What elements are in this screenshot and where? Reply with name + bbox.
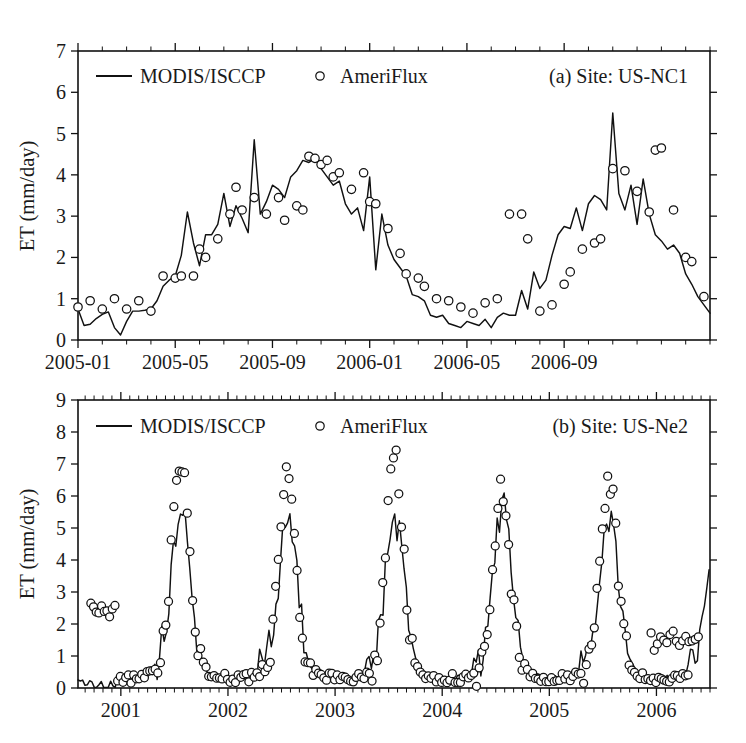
panel-b-ameriflux-markers bbox=[87, 446, 702, 690]
ameriflux-point bbox=[379, 579, 387, 587]
x-ticklabel: 2002 bbox=[208, 699, 248, 721]
ameriflux-point bbox=[384, 224, 392, 232]
ameriflux-point bbox=[98, 305, 106, 313]
ameriflux-point bbox=[214, 235, 222, 243]
ameriflux-point bbox=[162, 621, 170, 629]
ameriflux-point bbox=[582, 661, 590, 669]
legend-marker-swatch bbox=[316, 422, 324, 430]
y-ticklabel: 1 bbox=[56, 288, 66, 310]
y-ticklabel: 4 bbox=[56, 549, 66, 571]
ameriflux-point bbox=[183, 509, 191, 517]
ameriflux-point bbox=[588, 641, 596, 649]
ameriflux-point bbox=[489, 566, 497, 574]
ameriflux-point bbox=[189, 597, 197, 605]
ameriflux-point bbox=[181, 469, 189, 477]
ameriflux-point bbox=[86, 297, 94, 305]
ameriflux-point bbox=[250, 193, 258, 201]
panel-a-us-nc1: 01234567 2005-012005-052005-092006-01200… bbox=[0, 0, 746, 380]
ameriflux-point bbox=[298, 634, 306, 642]
ameriflux-point bbox=[596, 235, 604, 243]
y-ticklabel: 5 bbox=[56, 517, 66, 539]
ameriflux-point bbox=[560, 280, 568, 288]
panel-a-plot-area bbox=[74, 113, 710, 335]
ameriflux-point bbox=[612, 519, 620, 527]
ameriflux-point bbox=[387, 465, 395, 473]
x-ticklabel: 2004 bbox=[422, 699, 462, 721]
ameriflux-point bbox=[269, 615, 277, 623]
ameriflux-point bbox=[173, 476, 181, 484]
ameriflux-point bbox=[609, 485, 617, 493]
ameriflux-point bbox=[232, 183, 240, 191]
ameriflux-point bbox=[280, 216, 288, 224]
x-ticklabel: 2005-01 bbox=[45, 351, 112, 373]
panel-a-axes: 01234567 2005-012005-052005-092006-01200… bbox=[45, 40, 717, 373]
ameriflux-point bbox=[614, 582, 622, 590]
ameriflux-point bbox=[135, 297, 143, 305]
ameriflux-point bbox=[154, 669, 162, 677]
ameriflux-point bbox=[238, 206, 246, 214]
y-ticklabel: 2 bbox=[56, 246, 66, 268]
y-ticklabel: 3 bbox=[56, 205, 66, 227]
ameriflux-point bbox=[389, 454, 397, 462]
x-ticklabel: 2006-01 bbox=[336, 351, 403, 373]
y-ticklabel: 7 bbox=[56, 453, 66, 475]
x-ticklabel: 2001 bbox=[101, 699, 141, 721]
ameriflux-point bbox=[106, 613, 114, 621]
x-ticklabel: 2006-05 bbox=[434, 351, 501, 373]
ameriflux-point bbox=[403, 606, 411, 614]
ameriflux-point bbox=[74, 303, 82, 311]
ameriflux-point bbox=[202, 663, 210, 671]
panel-a-ameriflux-markers bbox=[74, 144, 708, 318]
ameriflux-point bbox=[335, 169, 343, 177]
ameriflux-point bbox=[147, 307, 155, 315]
ameriflux-point bbox=[280, 491, 288, 499]
ameriflux-point bbox=[165, 597, 173, 605]
ameriflux-point bbox=[186, 548, 194, 556]
ameriflux-point bbox=[197, 645, 205, 653]
y-ticklabel: 9 bbox=[56, 389, 66, 411]
ameriflux-point bbox=[590, 624, 598, 632]
ameriflux-point bbox=[577, 669, 585, 677]
ameriflux-point bbox=[505, 541, 513, 549]
ameriflux-point bbox=[159, 272, 167, 280]
ameriflux-point bbox=[596, 557, 604, 565]
ameriflux-point bbox=[601, 504, 609, 512]
ameriflux-point bbox=[274, 555, 282, 563]
panel-b-svg: 0123456789 200120022003200420052006 ET (… bbox=[0, 378, 746, 743]
panel-a-x-ticklabels: 2005-012005-052005-092006-012006-052006-… bbox=[45, 351, 598, 373]
ameriflux-point bbox=[475, 664, 483, 672]
legend-marker-swatch bbox=[316, 72, 324, 80]
legend-label-ameriflux: AmeriFlux bbox=[340, 415, 428, 437]
ameriflux-point bbox=[517, 210, 525, 218]
ameriflux-point bbox=[481, 642, 489, 650]
y-ticklabel: 7 bbox=[56, 40, 66, 62]
panel-b-y-ticks bbox=[71, 400, 717, 688]
panel-b-label: (b) Site: US-Ne2 bbox=[552, 415, 688, 438]
panel-a-x-ticks bbox=[78, 43, 710, 348]
ameriflux-point bbox=[598, 525, 606, 533]
ameriflux-point bbox=[505, 210, 513, 218]
ameriflux-point bbox=[420, 282, 428, 290]
ameriflux-point bbox=[323, 156, 331, 164]
ameriflux-point bbox=[282, 463, 290, 471]
x-ticklabel: 2005 bbox=[529, 699, 569, 721]
x-ticklabel: 2006-09 bbox=[531, 351, 598, 373]
ameriflux-point bbox=[469, 309, 477, 317]
ameriflux-point bbox=[536, 307, 544, 315]
ameriflux-point bbox=[647, 629, 655, 637]
panel-a-y-ticklabels: 01234567 bbox=[56, 40, 66, 351]
ameriflux-point bbox=[578, 245, 586, 253]
ameriflux-point bbox=[548, 301, 556, 309]
ameriflux-point bbox=[274, 193, 282, 201]
ameriflux-point bbox=[621, 167, 629, 175]
ameriflux-point bbox=[617, 597, 625, 605]
panel-a-frame bbox=[78, 51, 710, 340]
legend-label-modis: MODIS/ISCCP bbox=[140, 415, 266, 437]
ameriflux-point bbox=[497, 475, 505, 483]
ameriflux-point bbox=[381, 554, 389, 562]
ameriflux-point bbox=[177, 272, 185, 280]
ameriflux-point bbox=[296, 613, 304, 621]
ameriflux-point bbox=[688, 257, 696, 265]
y-ticklabel: 4 bbox=[56, 164, 66, 186]
ameriflux-point bbox=[494, 504, 502, 512]
